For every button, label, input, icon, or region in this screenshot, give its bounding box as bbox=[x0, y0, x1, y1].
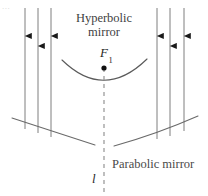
focus-point-label-subscript: 1 bbox=[108, 55, 112, 65]
focus-point-dot bbox=[101, 65, 106, 70]
parabolic-mirror-left-curve bbox=[12, 118, 95, 145]
hyperbolic-mirror-label: Hyperbolic mirror bbox=[62, 12, 146, 39]
hyperbolic-mirror-label-line2: mirror bbox=[62, 26, 146, 40]
figure-container: ... Hyperbol bbox=[0, 0, 208, 196]
focus-point-label-letter: F bbox=[100, 45, 108, 60]
focus-point-label: F1 bbox=[100, 46, 112, 63]
optical-axis-label: l bbox=[92, 172, 96, 186]
light-rays-right bbox=[157, 8, 184, 139]
light-rays-left bbox=[25, 8, 51, 137]
parabolic-mirror-label: Parabolic mirror bbox=[112, 158, 194, 172]
parabolic-mirror-right-curve bbox=[114, 116, 198, 146]
hyperbolic-mirror-label-line1: Hyperbolic bbox=[76, 11, 132, 25]
